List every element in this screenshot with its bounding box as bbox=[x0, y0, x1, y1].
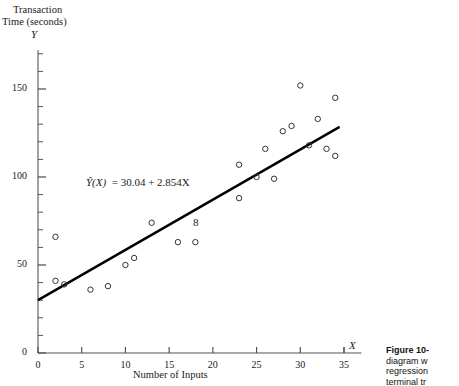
x-tick-label: 35 bbox=[332, 359, 356, 370]
data-point-marker bbox=[271, 176, 276, 181]
y-tick-label: 150 bbox=[2, 82, 27, 93]
caption-heading: Figure 10- bbox=[386, 345, 459, 356]
stray-mark-annotation: 8 bbox=[193, 216, 199, 228]
data-point-marker bbox=[315, 116, 320, 121]
data-point-marker bbox=[263, 146, 268, 151]
x-tick-label: 10 bbox=[113, 359, 137, 370]
data-point-marker bbox=[53, 234, 58, 239]
figure-root: Transaction Time (seconds) Y X Number of… bbox=[0, 0, 459, 386]
caption-line-3: regression bbox=[386, 366, 459, 377]
data-point-marker bbox=[105, 283, 110, 288]
data-point-marker bbox=[88, 287, 93, 292]
data-point-marker bbox=[289, 123, 294, 128]
regression-equation-annotation: Ŷ(X) = 30.04 + 2.854X bbox=[86, 176, 190, 188]
data-point-marker bbox=[298, 83, 303, 88]
data-point-marker bbox=[53, 278, 58, 283]
data-point-marker bbox=[149, 220, 154, 225]
x-tick-label: 20 bbox=[201, 359, 225, 370]
axis-ticks bbox=[38, 54, 344, 353]
figure-caption: Figure 10- diagram w regression terminal… bbox=[386, 345, 459, 386]
axis-lines bbox=[38, 50, 361, 353]
x-tick-label: 25 bbox=[245, 359, 269, 370]
data-point-marker bbox=[175, 239, 180, 244]
data-point-marker bbox=[324, 146, 329, 151]
x-tick-label: 0 bbox=[26, 359, 50, 370]
data-point-marker bbox=[236, 195, 241, 200]
caption-line-2: diagram w bbox=[386, 356, 459, 367]
data-point-marker bbox=[123, 262, 128, 267]
data-point-marker bbox=[333, 95, 338, 100]
scatter-plot-canvas bbox=[0, 0, 459, 386]
equation-lhs: Ŷ(X) bbox=[86, 176, 106, 188]
x-tick-label: 5 bbox=[70, 359, 94, 370]
fit-line-segment bbox=[38, 127, 340, 300]
data-point-marker bbox=[333, 153, 338, 158]
data-point-marker bbox=[236, 162, 241, 167]
data-point-marker bbox=[280, 129, 285, 134]
y-tick-label: 100 bbox=[2, 170, 27, 181]
data-point-marker bbox=[193, 239, 198, 244]
data-point-marker bbox=[131, 255, 136, 260]
y-tick-label: 0 bbox=[2, 346, 27, 357]
y-tick-label: 50 bbox=[2, 258, 27, 269]
x-tick-label: 30 bbox=[288, 359, 312, 370]
equation-rhs-text: = 30.04 + 2.854X bbox=[112, 176, 190, 188]
caption-line-4: terminal tr bbox=[386, 377, 459, 386]
x-tick-label: 15 bbox=[157, 359, 181, 370]
regression-line bbox=[38, 127, 340, 300]
